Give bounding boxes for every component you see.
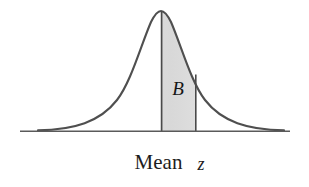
normal-curve-figure: B Mean z <box>0 0 309 187</box>
mean-label: Mean <box>135 150 183 174</box>
region-b-label: B <box>168 79 188 98</box>
axis-caption: Mean z <box>0 150 309 175</box>
z-label: z <box>197 154 204 174</box>
axis-caption-inner: Mean z <box>135 150 205 175</box>
